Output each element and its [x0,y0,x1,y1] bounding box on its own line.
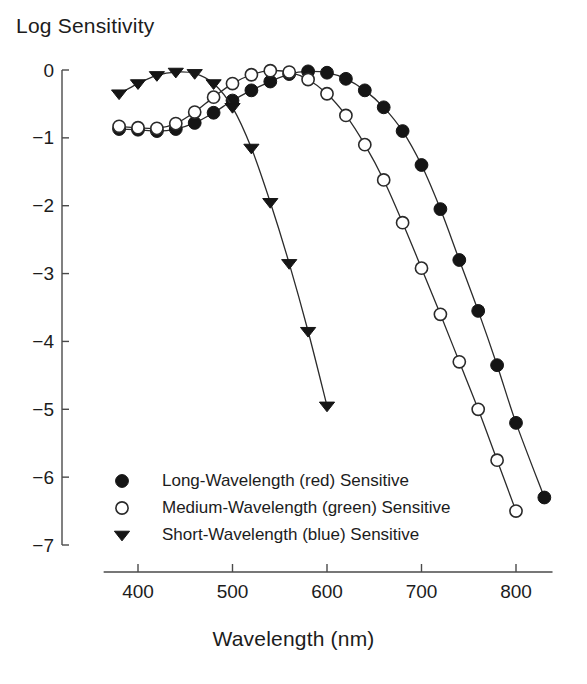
x-tick-label: 400 [122,581,154,602]
data-point-open-circle [151,122,163,134]
y-tick-label: 0 [43,60,54,81]
data-point-filled-circle [415,159,428,172]
data-point-filled-circle [538,491,551,504]
legend-item-label: Medium-Wavelength (green) Sensitive [162,498,451,517]
x-axis-ticks: 400500600700800 [122,564,532,602]
data-point-triangle-down [301,327,316,337]
x-tick-label: 700 [406,581,438,602]
series-line [119,70,516,511]
y-tick-label: −1 [32,127,54,148]
data-point-filled-circle [472,304,485,317]
data-point-open-circle [321,88,333,100]
data-point-triangle-down [244,144,259,154]
data-point-filled-circle [207,106,220,119]
data-point-open-circle [132,122,144,134]
data-point-filled-circle [510,416,523,429]
data-point-open-circle [434,308,446,320]
legend-item-label: Long-Wavelength (red) Sensitive [162,471,409,490]
legend-item: Long-Wavelength (red) Sensitive [116,471,409,490]
data-point-open-circle [170,118,182,130]
data-point-open-circle [472,403,484,415]
sensitivity-chart: 0−1−2−3−4−5−6−7 400500600700800 Long-Wav… [0,0,587,684]
data-point-open-circle [116,502,128,514]
y-tick-label: −3 [32,263,54,284]
data-point-open-circle [415,262,427,274]
x-tick-label: 600 [311,581,343,602]
data-point-open-circle [208,91,220,103]
data-point-filled-circle [340,72,353,85]
data-point-triangle-down [112,90,127,100]
data-point-filled-circle [245,84,258,97]
data-point-open-circle [491,454,503,466]
series-filled-triangle-down [112,68,335,412]
series-line [119,72,327,406]
data-point-triangle-down [225,104,240,114]
y-axis-ticks: 0−1−2−3−4−5−6−7 [32,60,69,556]
y-tick-label: −6 [32,467,54,488]
data-point-triangle-down [263,199,278,209]
data-point-triangle-down [282,260,297,270]
data-point-filled-circle [377,101,390,114]
data-point-open-circle [302,73,314,85]
data-point-open-circle [378,174,390,186]
data-point-filled-circle [491,359,504,372]
data-point-open-circle [113,120,125,132]
data-point-filled-circle [453,254,466,267]
data-point-open-circle [340,109,352,121]
x-axis: 400500600700800 [104,564,553,602]
data-series-layer [112,65,551,518]
legend-item-label: Short-Wavelength (blue) Sensitive [162,525,419,544]
data-point-triangle-down [114,531,129,541]
series-line [119,71,544,497]
y-tick-label: −2 [32,195,54,216]
y-tick-label: −5 [32,399,54,420]
y-axis: 0−1−2−3−4−5−6−7 [32,60,69,556]
data-point-triangle-down [149,72,164,82]
data-point-triangle-down [130,80,145,90]
legend-item: Medium-Wavelength (green) Sensitive [116,498,451,517]
data-point-triangle-down [187,70,202,80]
data-point-filled-circle [358,84,371,97]
data-point-open-circle [189,106,201,118]
series-filled-circle [113,65,551,504]
data-point-open-circle [264,65,276,77]
data-point-filled-circle [116,475,129,488]
data-point-open-circle [245,69,257,81]
y-tick-label: −7 [32,535,54,556]
x-axis-title: Wavelength (nm) [0,627,587,651]
data-point-triangle-down [319,402,334,412]
data-point-open-circle [226,77,238,89]
data-point-open-circle [359,139,371,151]
data-point-filled-circle [396,125,409,138]
legend-item: Short-Wavelength (blue) Sensitive [114,525,419,544]
chart-legend: Long-Wavelength (red) SensitiveMedium-Wa… [114,471,450,544]
x-tick-label: 500 [217,581,249,602]
x-tick-label: 800 [500,581,532,602]
data-point-open-circle [397,217,409,229]
data-point-filled-circle [321,66,334,79]
data-point-filled-circle [434,203,447,216]
data-point-open-circle [510,505,522,517]
data-point-open-circle [453,356,465,368]
data-point-open-circle [283,66,295,78]
y-tick-label: −4 [32,331,54,352]
